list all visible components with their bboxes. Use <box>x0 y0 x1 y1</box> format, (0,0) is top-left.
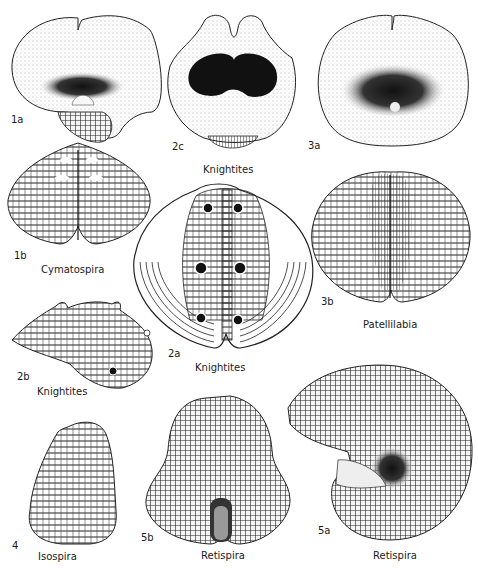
figure-label-2a: 2a <box>168 348 181 359</box>
plate-illustration <box>0 0 478 568</box>
figure-1b-shell <box>8 143 150 244</box>
figure-label-2b: 2b <box>17 371 30 382</box>
genus-name-retispira-5a: Retispira <box>373 550 417 561</box>
figure-label-1b: 1b <box>14 250 27 261</box>
figure-5b-shell <box>146 396 290 544</box>
figure-label-3a: 3a <box>308 140 321 151</box>
genus-name-knightites-2a: Knightites <box>195 362 245 373</box>
figure-label-1a: 1a <box>11 114 24 125</box>
genus-name-patellilabia: Patellilabia <box>363 319 417 330</box>
figure-2b-shell <box>12 302 152 388</box>
genus-name-cymatospira: Cymatospira <box>41 264 104 275</box>
genus-name-retispira-5b: Retispira <box>201 550 245 561</box>
figure-3a-shell <box>318 15 468 146</box>
genus-name-isospira: Isospira <box>38 551 77 562</box>
genus-name-knightites-2b: Knightites <box>37 386 87 397</box>
figure-1a-shell <box>12 16 161 142</box>
genus-name-knightites-2c: Knightites <box>203 164 253 175</box>
figure-4-shell <box>29 422 116 544</box>
figure-label-2c: 2c <box>172 141 184 152</box>
figure-label-4: 4 <box>12 540 18 551</box>
figure-label-5a: 5a <box>318 525 331 536</box>
figure-2a-shell <box>134 184 313 348</box>
figure-5a-shell <box>288 365 472 540</box>
figure-2c-shell <box>168 15 296 148</box>
figure-label-5b: 5b <box>141 532 154 543</box>
figure-3b-shell <box>312 172 470 302</box>
figure-label-3b: 3b <box>321 296 334 307</box>
